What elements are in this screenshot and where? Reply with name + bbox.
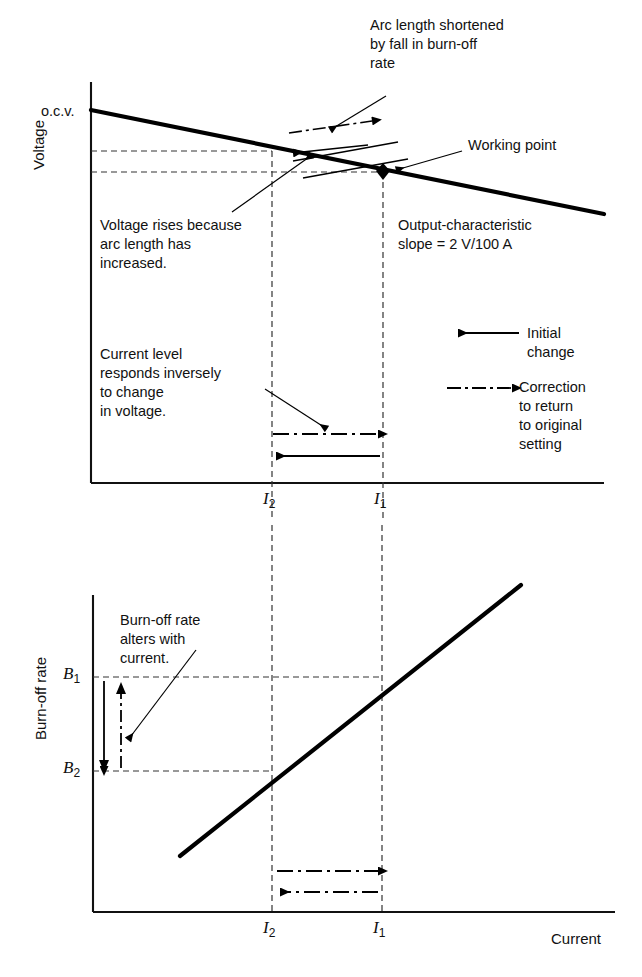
leader-current-level: [265, 389, 327, 429]
leader-arc-shortened: [330, 96, 386, 130]
bottom-y-tick-b1: B1: [63, 664, 80, 686]
annotation-burnoff-alters: Burn-off rate alters with current.: [120, 611, 200, 668]
bottom-x-tick-i1: I1: [373, 918, 385, 940]
top-chart-guides: [91, 151, 383, 520]
leader-working-point: [396, 151, 462, 170]
top-x-tick-i1-sub: 1: [380, 497, 387, 511]
bottom-x-tick-i2: I2: [263, 918, 275, 940]
annotation-working-point: Working point: [468, 136, 556, 155]
annotation-voltage-rises: Voltage rises because arc length has inc…: [100, 216, 242, 273]
working-point-marker: [376, 163, 390, 180]
annotation-arc-shortened: Arc length shortened by fall in burn-off…: [370, 16, 504, 73]
burn-off-rate-line: [180, 585, 521, 856]
top-x-tick-i2: I2: [263, 489, 275, 511]
top-y-axis-title: Voltage: [30, 120, 47, 170]
bottom-y-tick-b2: B2: [63, 758, 80, 780]
output-characteristic-line: [91, 110, 604, 214]
legend-label-initial-change: Initial change: [527, 324, 575, 362]
annotation-current-level: Current level responds inversely to chan…: [100, 345, 221, 421]
legend-label-correction: Correction to return to original setting: [519, 378, 586, 454]
bottom-y-tick-b2-sub: 2: [73, 766, 80, 780]
bottom-chart-guides: [93, 525, 382, 912]
bottom-x-tick-i2-sub: 2: [269, 926, 276, 940]
bottom-y-tick-b1-base: B: [63, 664, 73, 683]
burnoff-correction-arrow: [116, 682, 126, 768]
top-x-tick-i2-sub: 2: [269, 497, 276, 511]
ocv-label: o.c.v.: [41, 102, 75, 121]
burnoff-initial-change-arrow: [99, 681, 109, 772]
bottom-y-axis-title: Burn-off rate: [32, 657, 49, 740]
bottom-y-tick-b2-base: B: [63, 758, 73, 777]
figure-canvas: Voltage o.c.v. Arc length shortened by f…: [0, 0, 642, 977]
bottom-x-axis-title: Current: [551, 930, 601, 947]
annotation-output-characteristic: Output-characteristic slope = 2 V/100 A: [398, 216, 532, 254]
top-x-tick-i1: I1: [374, 489, 386, 511]
bottom-y-tick-b1-sub: 1: [73, 672, 80, 686]
bottom-x-tick-i1-sub: 1: [379, 926, 386, 940]
top-correction-arrow: [289, 121, 372, 133]
